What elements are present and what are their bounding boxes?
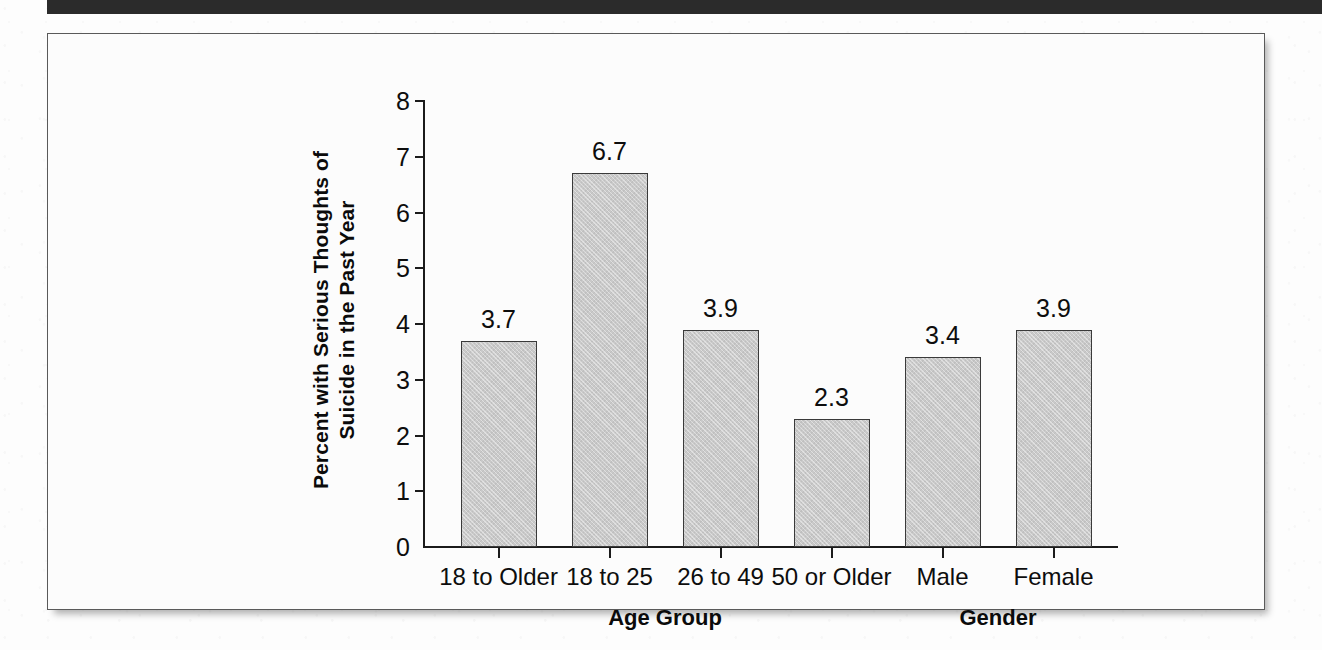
bar[interactable] [794,419,870,547]
x-tick-mark [609,548,611,558]
y-tick-mark [415,156,425,158]
bar[interactable] [683,330,759,547]
group-axis-label: Gender [959,605,1036,631]
y-tick-mark [415,212,425,214]
x-tick-label: 26 to 49 [677,563,764,591]
y-tick-mark [415,323,425,325]
bar[interactable] [905,357,981,547]
x-tick-mark [720,548,722,558]
x-tick-mark [831,548,833,558]
chart-plot-area: Percent with Serious Thoughts of Suicide… [48,34,1264,609]
y-axis-title-line-1: Percent with Serious Thoughts of [308,151,334,489]
group-axis-label: Age Group [608,605,722,631]
y-tick-label: 4 [376,310,410,339]
y-tick-mark [415,435,425,437]
x-tick-label: 18 to 25 [566,563,653,591]
bar[interactable] [572,173,648,547]
y-tick-label: 8 [376,87,410,116]
bar-value-label: 3.7 [449,305,549,334]
y-axis-title-line-2: Suicide in the Past Year [334,201,360,440]
bar[interactable] [1016,330,1092,547]
bar[interactable] [461,341,537,547]
y-tick-mark [415,267,425,269]
y-tick-mark [415,379,425,381]
y-tick-label: 3 [376,365,410,394]
y-tick-mark [415,490,425,492]
bar-value-label: 3.9 [671,294,771,323]
y-axis-title: Percent with Serious Thoughts of Suicide… [291,90,377,550]
y-tick-label: 1 [376,477,410,506]
x-tick-mark [498,548,500,558]
bar-value-label: 3.4 [893,321,993,350]
y-tick-mark [415,100,425,102]
top-header-band [47,0,1322,14]
page-canvas: Percent with Serious Thoughts of Suicide… [0,0,1322,650]
x-tick-label: Female [1013,563,1093,591]
bar-value-label: 3.9 [1004,294,1104,323]
x-tick-mark [942,548,944,558]
x-tick-label: 50 or Older [771,563,891,591]
x-tick-label: Male [916,563,968,591]
x-tick-mark [1053,548,1055,558]
y-tick-label: 0 [376,533,410,562]
chart-frame: Percent with Serious Thoughts of Suicide… [47,33,1265,610]
y-tick-label: 2 [376,421,410,450]
y-tick-label: 5 [376,254,410,283]
y-tick-label: 7 [376,142,410,171]
x-tick-label: 18 to Older [439,563,558,591]
bar-value-label: 2.3 [782,383,882,412]
bar-value-label: 6.7 [560,137,660,166]
y-tick-label: 6 [376,198,410,227]
